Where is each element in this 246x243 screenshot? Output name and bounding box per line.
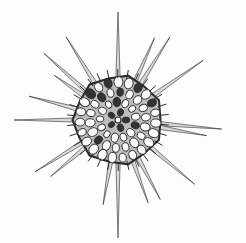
radiolarian-image — [0, 0, 246, 243]
spine — [147, 144, 194, 184]
shell-pore — [117, 88, 124, 97]
bristle — [143, 154, 148, 161]
shell-pore — [113, 97, 121, 107]
spine — [116, 160, 120, 238]
bristle — [70, 133, 79, 136]
spine — [150, 60, 204, 99]
shell-pore — [141, 113, 151, 121]
bristle — [149, 86, 156, 92]
shell-pore — [112, 143, 120, 152]
bristle — [160, 114, 169, 115]
shell-center — [115, 117, 121, 123]
shell-pore — [75, 118, 85, 126]
shell-pore — [150, 118, 161, 127]
bristle — [107, 70, 109, 79]
shell-pore — [122, 117, 130, 123]
spine — [29, 96, 80, 112]
bristle — [97, 74, 101, 82]
shell-pore — [114, 76, 123, 87]
radiolarian-drawing — [0, 0, 246, 243]
shell-pore — [96, 116, 104, 122]
spine — [14, 118, 78, 122]
